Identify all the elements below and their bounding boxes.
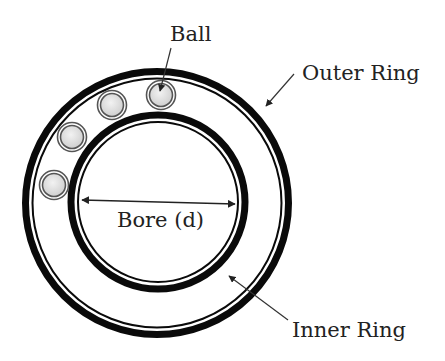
ball-3 [58, 123, 87, 152]
outer-ring [26, 72, 289, 335]
inner-ring-label: Inner Ring [292, 318, 406, 342]
bore-dimension-arrow [82, 200, 235, 204]
outer-ring-leader-arrow [266, 74, 294, 106]
bearing-diagram: Ball Outer Ring Inner Ring Bore (d) [0, 0, 445, 361]
outer-ring-label: Outer Ring [302, 61, 420, 85]
outer-ring-band [26, 72, 289, 335]
ball-4 [40, 171, 69, 200]
ball-2 [98, 91, 127, 120]
bore-label: Bore (d) [117, 208, 204, 232]
ball-label: Ball [170, 22, 212, 46]
